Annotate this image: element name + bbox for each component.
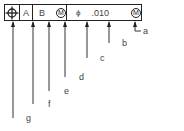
callout-label-b: b: [122, 39, 127, 48]
callout-label-e: e: [64, 87, 69, 96]
callout-label-g: g: [26, 114, 31, 123]
callout-label-c: c: [100, 54, 105, 63]
leader-lines: [0, 0, 184, 131]
callout-label-f: f: [48, 100, 51, 109]
callout-label-a: a: [143, 27, 148, 36]
callout-label-d: d: [79, 73, 84, 82]
